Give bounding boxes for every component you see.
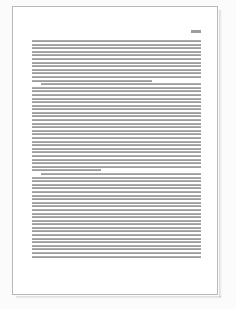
text-line [32, 54, 201, 56]
text-line [32, 119, 201, 121]
text-line [32, 205, 201, 207]
text-line [32, 177, 201, 179]
text-line [32, 112, 201, 114]
text-line [32, 141, 201, 143]
text-line [32, 105, 201, 107]
text-line [32, 72, 201, 74]
text-line [32, 87, 201, 89]
text-line [32, 130, 201, 132]
text-line [32, 187, 201, 189]
paragraph [32, 83, 201, 171]
text-line [32, 80, 152, 82]
document-page-sheet[interactable] [12, 6, 218, 295]
text-line [32, 220, 201, 222]
text-line [32, 241, 201, 243]
text-line [32, 180, 201, 182]
paragraph [32, 173, 201, 258]
text-line [32, 162, 201, 164]
text-line [32, 234, 201, 236]
text-line [32, 230, 201, 232]
text-line [32, 108, 201, 110]
text-line [32, 155, 201, 157]
text-line [32, 184, 201, 186]
text-line [32, 144, 201, 146]
text-line [32, 90, 201, 92]
text-line [32, 223, 201, 225]
document-thumbnail-viewport [0, 0, 236, 309]
text-line [32, 166, 201, 168]
text-line [32, 40, 201, 42]
text-line [32, 148, 201, 150]
text-line [32, 209, 201, 211]
text-line [32, 115, 201, 117]
text-line [32, 159, 201, 161]
text-line [32, 195, 201, 197]
text-line [32, 151, 201, 153]
text-line [41, 83, 201, 85]
text-line [32, 191, 201, 193]
text-line [32, 198, 201, 200]
text-line [32, 169, 101, 171]
text-line [32, 44, 201, 46]
text-line [32, 248, 201, 250]
text-line [32, 216, 201, 218]
text-line [32, 238, 201, 240]
text-line [41, 173, 201, 175]
text-line [32, 137, 201, 139]
page-shadow-bottom [16, 296, 221, 299]
text-line [32, 213, 201, 215]
text-line [32, 47, 201, 49]
text-line [32, 126, 201, 128]
text-line [32, 51, 201, 53]
running-head-mark-icon [191, 30, 201, 33]
text-line [32, 69, 201, 71]
text-line [32, 133, 201, 135]
text-line [32, 58, 201, 60]
text-line [32, 202, 201, 204]
text-line [32, 101, 201, 103]
text-line [32, 245, 201, 247]
text-line [32, 98, 201, 100]
text-line [32, 76, 201, 78]
page-shadow-right [219, 10, 222, 297]
text-line [32, 227, 201, 229]
text-line [32, 123, 201, 125]
document-text-body [32, 40, 201, 258]
paragraph [32, 40, 201, 82]
text-line [32, 256, 201, 258]
text-line [32, 252, 201, 254]
text-line [32, 94, 201, 96]
text-line [32, 62, 201, 64]
text-line [32, 65, 201, 67]
